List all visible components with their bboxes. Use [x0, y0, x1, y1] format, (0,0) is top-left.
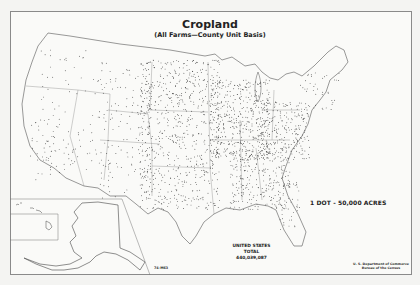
- map-subtitle: (All Farms—County Unit Basis): [0, 31, 420, 39]
- lake-michigan: [255, 72, 261, 102]
- map-number: 74-M63: [154, 266, 168, 270]
- source-line-2: Bureau of the Census: [345, 266, 417, 270]
- source-credit: U. S. Department of Commerce Bureau of t…: [345, 262, 417, 270]
- dot-legend: 1 DOT - 50,000 ACRES: [310, 199, 386, 206]
- dot-layer: [30, 50, 339, 230]
- inset-frames: [10, 199, 150, 275]
- hawaii-inset: [16, 203, 52, 230]
- us-map: [0, 0, 420, 285]
- total-value: 440,039,087: [214, 255, 289, 261]
- us-total: UNITED STATES TOTAL 440,039,087: [214, 243, 289, 262]
- map-title: Cropland: [0, 18, 420, 31]
